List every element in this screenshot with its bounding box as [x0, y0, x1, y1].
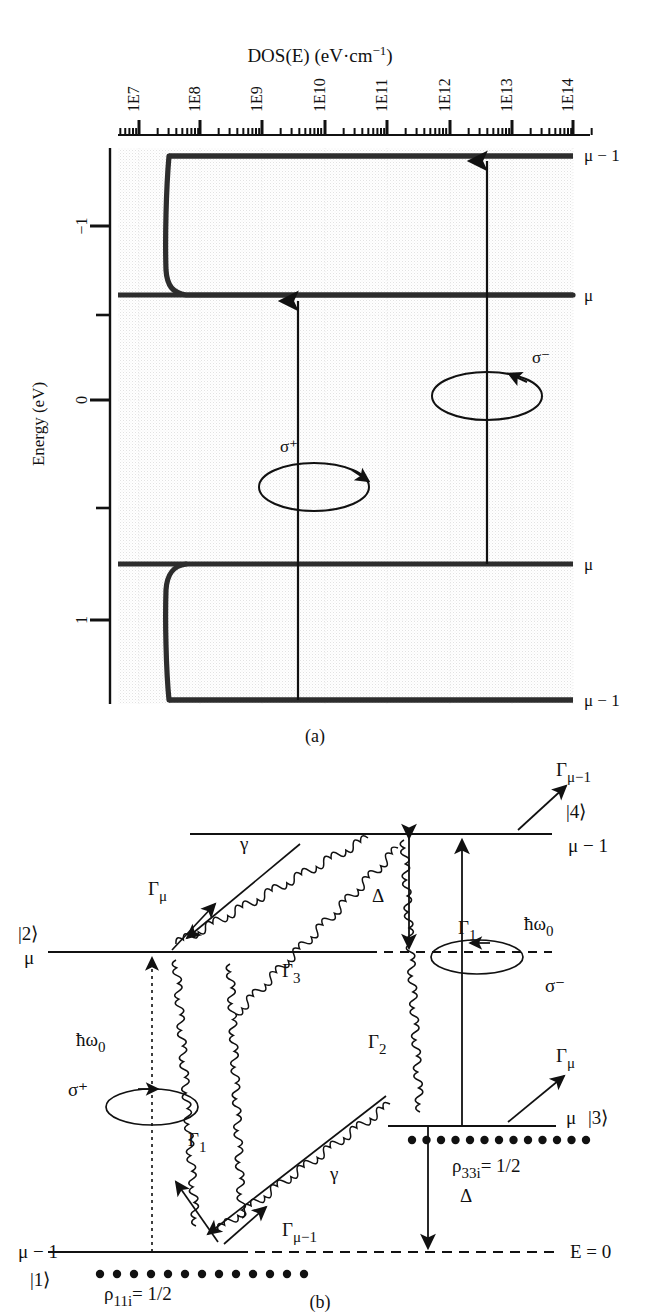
wavy-gamma-2 [236, 847, 398, 1015]
right-label-mu-minus-1-top: μ − 1 [584, 146, 620, 165]
polarization-ellipse-sigma-minus-b [431, 940, 523, 974]
label-ket-2: |2⟩ [18, 923, 38, 944]
wavy-gamma-3 [172, 960, 198, 1226]
decay-arrow-gamma-2 [208, 1096, 386, 1234]
label-level-2-left: μ [24, 947, 34, 968]
svg-text:0: 0 [73, 396, 90, 404]
label-gamma-mu-1-top: Γμ−1 [556, 759, 591, 785]
label-hbar-omega-left: ħω0 [76, 1029, 106, 1055]
wavy-gamma-1-right [400, 840, 423, 1112]
label-hbar-omega-right: ħω0 [524, 913, 554, 939]
label-ket-1: |1⟩ [30, 1269, 50, 1290]
sigma-minus-label-panel-a: σ⁻ [532, 348, 550, 367]
y-axis-minor-ticks [96, 315, 110, 508]
svg-text:1E9: 1E9 [248, 86, 265, 112]
y-axis-major-ticks [90, 226, 110, 620]
label-level-1-left: μ − 1 [18, 1241, 58, 1262]
figure-root: DOS(E) (eV·cm−1) 1E7 1E8 1E9 1E10 1E11 1… [0, 0, 649, 1312]
svg-text:1E7: 1E7 [125, 86, 142, 112]
y-axis-label: Energy (eV) [29, 382, 48, 466]
label-sigma-plus-b: σ⁺ [68, 1079, 88, 1100]
label-gamma-top: γ [239, 833, 248, 854]
svg-text:1E13: 1E13 [498, 78, 515, 112]
label-delta-top: Δ [372, 885, 384, 906]
label-gamma-1-top: Γ1 [458, 917, 476, 943]
decay-arrow-gamma-1-bottom [176, 1182, 218, 1242]
escape-arrow-gamma-mu-left [172, 904, 215, 950]
decay-arrow-gamma-top [187, 844, 300, 938]
svg-text:1E8: 1E8 [186, 86, 203, 112]
label-sigma-minus-b: σ⁻ [545, 975, 565, 996]
y-axis-tick-labels: −1 0 1 [73, 217, 90, 624]
label-gamma-2: Γ2 [368, 1031, 386, 1057]
plot-background [118, 148, 573, 704]
label-gamma-3: Γ3 [282, 960, 300, 986]
panel-b-caption: (b) [310, 1292, 331, 1312]
wavy-gamma-1-left [226, 964, 246, 1218]
right-label-mu-upper: μ [584, 286, 593, 305]
label-level-4-right: μ − 1 [568, 835, 608, 856]
label-e-zero: E = 0 [570, 1241, 611, 1262]
label-gamma-mu-1-bottom: Γμ−1 [282, 1219, 317, 1245]
right-label-mu-minus-1-bottom: μ − 1 [584, 691, 620, 710]
x-axis-tick-labels: 1E7 1E8 1E9 1E10 1E11 1E12 1E13 1E14 [125, 78, 576, 112]
population-dots-level-1 [96, 1270, 308, 1278]
panel-a: DOS(E) (eV·cm−1) 1E7 1E8 1E9 1E10 1E11 1… [0, 0, 649, 760]
panel-a-caption: (a) [305, 726, 325, 747]
sigma-plus-label: σ⁺ [280, 437, 298, 456]
svg-text:−1: −1 [73, 217, 90, 234]
x-axis-major-ticks [139, 120, 573, 135]
svg-text:1E14: 1E14 [559, 78, 576, 112]
label-gamma-mu-right: Γμ [556, 1045, 575, 1071]
panel-b: Γμ−1 |4⟩ μ − 1 Γμ |2⟩ μ Γ3 γ Δ Γ1 ħω0 σ⁻… [0, 752, 649, 1312]
wavy-decay-arrows [172, 836, 423, 1230]
label-rho-33i: ρ33i= 1/2 [452, 1155, 520, 1181]
label-ket-3: |3⟩ [588, 1107, 608, 1128]
label-gamma-mu-left: Γμ [148, 878, 167, 904]
label-rho-11i: ρ11i= 1/2 [104, 1283, 172, 1309]
svg-text:1: 1 [73, 616, 90, 624]
right-label-mu-lower: μ [584, 555, 593, 574]
escape-arrow-gamma-mu-right [508, 1076, 564, 1122]
population-dots-level-3 [408, 1136, 590, 1144]
escape-arrow-gamma-mu-1 [518, 786, 566, 830]
label-delta-bottom: Δ [460, 1185, 472, 1206]
svg-text:1E11: 1E11 [373, 79, 390, 112]
label-level-3-right: μ [566, 1107, 576, 1128]
label-gamma-1-bottom: Γ1 [188, 1129, 206, 1155]
svg-text:1E10: 1E10 [311, 78, 328, 112]
wavy-gamma-top [176, 836, 368, 944]
label-ket-4: |4⟩ [566, 801, 586, 822]
panel-a-title: DOS(E) (eV·cm−1) [247, 43, 392, 67]
label-gamma-bottom: γ [329, 1163, 338, 1184]
svg-text:1E12: 1E12 [436, 78, 453, 112]
